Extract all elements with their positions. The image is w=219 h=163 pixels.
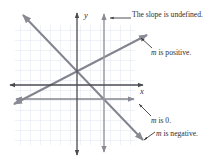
zero-slope-annotation: m is 0. [151, 117, 171, 125]
x-axis-label: x [140, 87, 144, 96]
positive-slope-annotation: m is positive. [151, 49, 191, 57]
positive-slope-annotation-text: is positive. [156, 48, 191, 57]
zero-slope-annotation-text: is 0. [156, 116, 171, 125]
negative-annotation-pointer [144, 132, 155, 140]
zero-annotation-pointer [139, 104, 151, 116]
negative-slope-annotation: m is negative. [156, 130, 198, 138]
slope-diagram-figure: y x The slope is undefined. m is positiv… [0, 0, 219, 163]
negative-slope-annotation-text: is negative. [161, 129, 197, 138]
undefined-slope-annotation: The slope is undefined. [132, 11, 203, 19]
coordinate-plane-svg [0, 0, 219, 163]
y-axis-label: y [84, 11, 88, 20]
positive-annotation-pointer [141, 38, 152, 48]
